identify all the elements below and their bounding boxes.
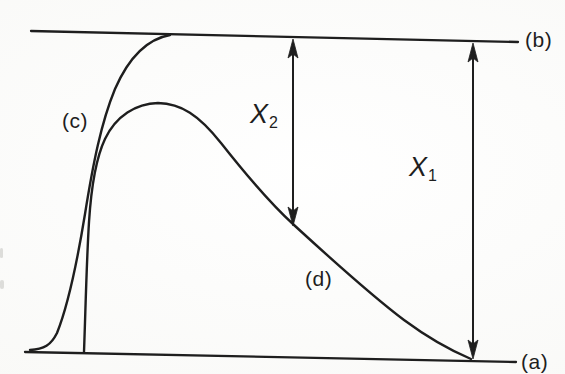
label-line-b: (b) xyxy=(525,29,552,50)
label-x2-subscript: 2 xyxy=(269,114,278,131)
x1-double-arrow-icon xyxy=(468,43,478,359)
label-x1-base: X xyxy=(409,152,427,182)
label-curve-c: (c) xyxy=(62,110,88,131)
scan-artifact xyxy=(0,248,3,258)
reference-line-b xyxy=(31,31,518,42)
curve-c xyxy=(30,35,170,350)
label-line-a: (a) xyxy=(521,351,548,372)
label-x2-base: X xyxy=(250,99,268,129)
scan-artifact xyxy=(0,280,4,289)
scanned-figure: (b) (a) (c) (d) X2 X1 xyxy=(0,0,565,374)
diagram-canvas xyxy=(0,0,565,374)
label-x2: X2 xyxy=(250,101,278,128)
x2-double-arrow-icon xyxy=(288,39,298,226)
label-curve-d: (d) xyxy=(305,268,332,289)
label-x1: X1 xyxy=(409,154,437,181)
baseline-a xyxy=(25,352,516,362)
curve-d xyxy=(84,103,471,359)
label-x1-subscript: 1 xyxy=(428,167,437,184)
